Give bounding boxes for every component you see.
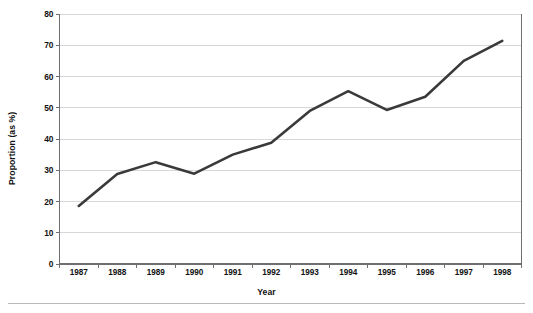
line-chart-canvas (0, 0, 533, 313)
gridlines (60, 14, 522, 233)
y-axis-title: Proportion (as %) (4, 88, 20, 208)
x-axis-title: Year (0, 287, 533, 297)
series-line-proportion (79, 41, 503, 206)
plot-area: 01020304050607080 1987198819891990199119… (0, 0, 533, 313)
chart-figure: 01020304050607080 1987198819891990199119… (0, 0, 533, 313)
axis-ticks (56, 14, 522, 268)
footer-divider (8, 303, 525, 304)
data-series-group (79, 41, 503, 206)
